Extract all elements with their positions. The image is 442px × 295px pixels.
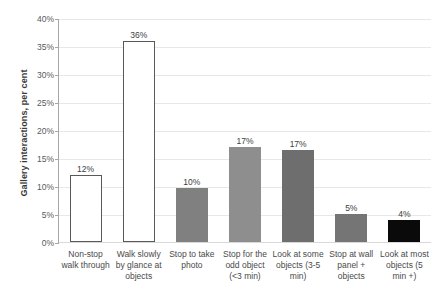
- y-tick-label-40: 40%: [24, 15, 54, 24]
- gridline-35: [59, 47, 431, 48]
- y-axis-tick-0: [55, 243, 59, 244]
- x-axis-label-0: Non-stop walk through: [60, 249, 111, 271]
- bar-stop-for-the-odd-object: [229, 147, 261, 242]
- bar-look-at-most-objects: [388, 220, 420, 242]
- y-tick-label-0: 0%: [24, 239, 54, 248]
- bar-stop-at-wall-panel: [335, 214, 367, 242]
- bar-value-label-6: 4%: [378, 209, 431, 219]
- gridline-20: [59, 131, 431, 132]
- y-tick-label-30: 30%: [24, 71, 54, 80]
- bar-value-label-5: 5%: [325, 203, 378, 213]
- y-tick-label-35: 35%: [24, 43, 54, 52]
- y-tick-label-20: 20%: [24, 127, 54, 136]
- gridline-30: [59, 75, 431, 76]
- bar-chart: Gallery interactions, per cent 40% 35% 3…: [0, 0, 442, 295]
- bar-value-label-1: 36%: [112, 30, 165, 40]
- bar-value-label-2: 10%: [165, 177, 218, 187]
- x-axis-label-4: Look at some objects (3-5 min): [273, 249, 324, 282]
- x-axis-label-3: Stop for the odd object (<3 min): [219, 249, 270, 282]
- bar-non-stop-walk-through: [70, 175, 102, 242]
- bar-value-label-0: 12%: [59, 164, 112, 174]
- x-axis-label-1: Walk slowly by glance at objects: [113, 249, 164, 282]
- bar-stop-to-take-photo: [176, 188, 208, 242]
- y-tick-label-25: 25%: [24, 99, 54, 108]
- y-tick-label-15: 15%: [24, 155, 54, 164]
- y-tick-label-5: 5%: [24, 211, 54, 220]
- x-axis-label-5: Stop at wall panel + objects: [326, 249, 377, 282]
- gridline-40: [59, 19, 431, 20]
- bar-value-label-4: 17%: [272, 139, 325, 149]
- bar-look-at-some-objects: [282, 150, 314, 242]
- gridline-25: [59, 103, 431, 104]
- x-axis-label-6: Look at most objects (5 min +): [379, 249, 430, 282]
- bar-value-label-3: 17%: [218, 136, 271, 146]
- x-axis-label-2: Stop to take photo: [166, 249, 217, 271]
- bar-walk-slowly-by-glance: [123, 41, 155, 242]
- gridline-0: [59, 242, 431, 243]
- y-tick-label-10: 10%: [24, 183, 54, 192]
